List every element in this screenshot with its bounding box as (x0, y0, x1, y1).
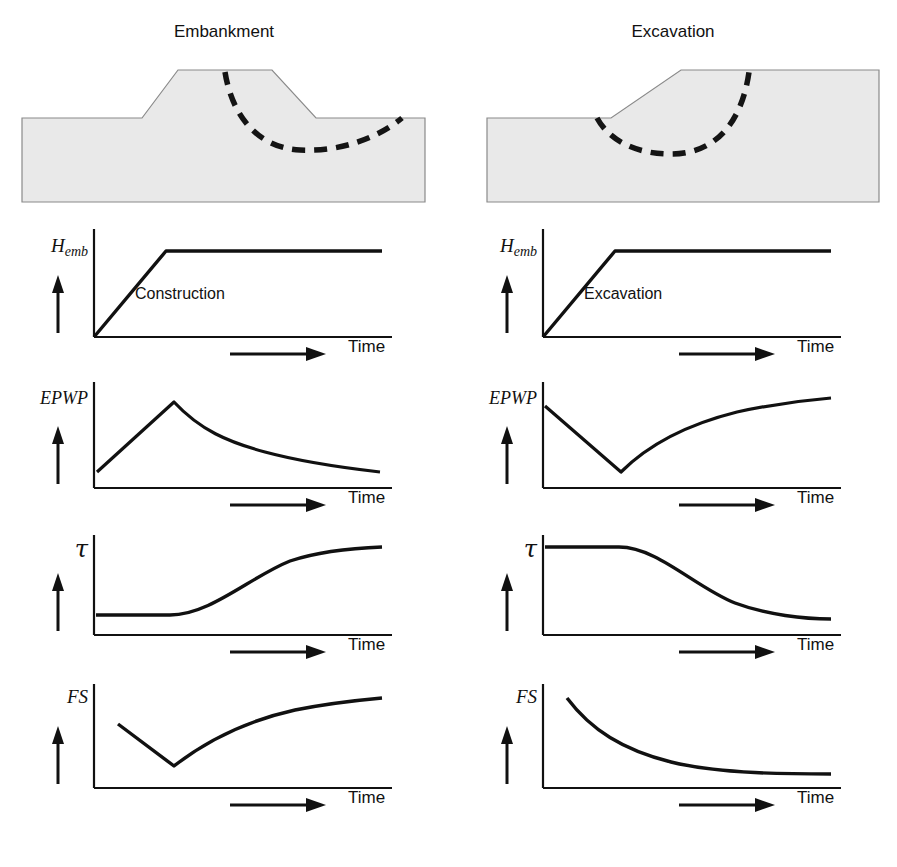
y-direction-arrow (501, 573, 513, 631)
y-direction-arrow (52, 726, 64, 784)
geotechnical-figure: Embankment Hemb Construction (0, 0, 897, 867)
column-embankment: Embankment Hemb Construction (0, 0, 448, 867)
x-axis-label-time: Time (348, 788, 385, 808)
x-axis-label-time: Time (797, 488, 834, 508)
x-direction-arrow (228, 343, 338, 365)
x-direction-arrow (228, 494, 338, 516)
curve-tau (545, 547, 831, 619)
y-direction-arrow (501, 726, 513, 784)
y-direction-arrow (501, 275, 513, 333)
x-axis-label-time: Time (797, 635, 834, 655)
cross-section-excavation (449, 30, 897, 190)
x-axis-label-time: Time (348, 488, 385, 508)
curve-tau (96, 547, 382, 615)
soil-body-embankment (22, 70, 425, 202)
curve-fs (118, 698, 382, 766)
curve-h-emb (543, 251, 831, 337)
x-direction-arrow (677, 343, 787, 365)
y-direction-arrow (52, 275, 64, 333)
y-direction-arrow (52, 426, 64, 484)
soil-body-excavation (487, 70, 879, 202)
x-axis-label-time: Time (797, 337, 834, 357)
curve-epwp (545, 398, 831, 472)
curve-h-emb (94, 251, 382, 337)
x-axis-label-time: Time (348, 635, 385, 655)
y-direction-arrow (501, 426, 513, 484)
x-axis-label-time: Time (348, 337, 385, 357)
x-direction-arrow (677, 794, 787, 816)
x-axis-label-time: Time (797, 788, 834, 808)
x-direction-arrow (677, 494, 787, 516)
x-direction-arrow (228, 794, 338, 816)
x-direction-arrow (677, 641, 787, 663)
y-direction-arrow (52, 573, 64, 631)
cross-section-embankment (0, 30, 448, 190)
curve-fs (567, 698, 831, 774)
curve-epwp (97, 402, 380, 472)
column-excavation: Excavation Hemb Excavation (449, 0, 897, 867)
x-direction-arrow (228, 641, 338, 663)
